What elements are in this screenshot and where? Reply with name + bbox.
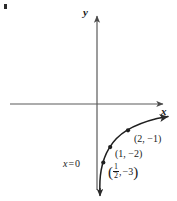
asymptote-equals: =	[68, 158, 74, 169]
y-axis-label: y	[83, 7, 88, 18]
point-label-2-neg1: (2, −1)	[134, 134, 161, 144]
coordinate-plane-svg	[0, 0, 177, 201]
label-second-coordinate: −3	[123, 166, 134, 177]
asymptote-label: x=0	[63, 159, 80, 169]
graph-figure: y x x=0 (2, −1) (1, −2) (12,−3)	[0, 0, 177, 201]
x-axis-label: x	[161, 106, 167, 117]
point-label-text: (1, −2)	[115, 148, 142, 159]
asymptote-value: 0	[75, 158, 80, 169]
data-point-marker	[108, 145, 112, 149]
label-comma: ,	[119, 166, 122, 177]
point-label-half-neg3: (12,−3)	[108, 163, 138, 181]
data-point-marker	[126, 128, 130, 132]
asymptote-variable: x	[63, 158, 67, 169]
point-label-1-neg2: (1, −2)	[115, 149, 142, 159]
right-paren: )	[133, 166, 138, 180]
data-point-marker	[101, 160, 105, 164]
point-label-text: (2, −1)	[134, 133, 161, 144]
